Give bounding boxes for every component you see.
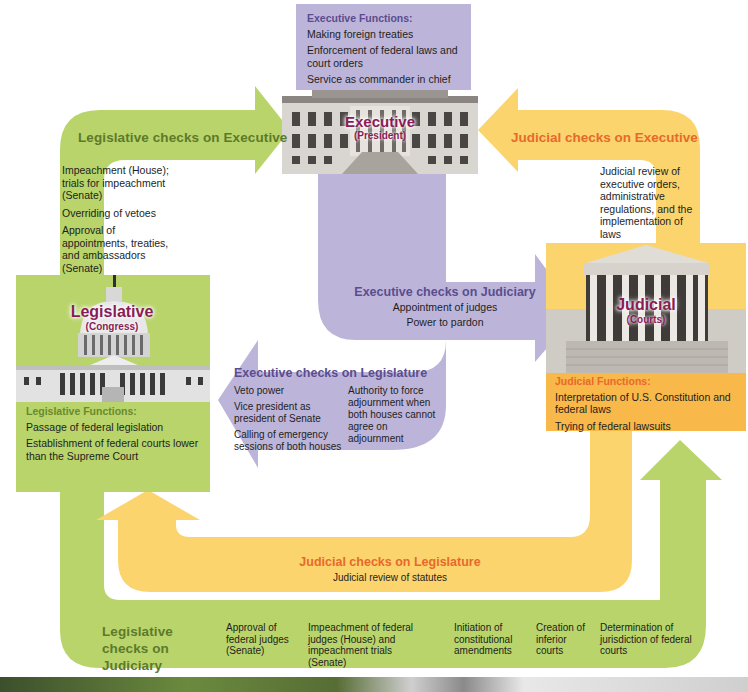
jud-on-leg-title: Judicial checks on Legislature <box>240 555 540 569</box>
bottom-photo-strip <box>0 677 748 692</box>
executive-label: Executive (President) <box>320 113 440 141</box>
exec-on-jud-item: Power to pardon <box>350 316 540 329</box>
jud-on-exec-list: Judicial review of executive orders, adm… <box>600 165 700 245</box>
leg-on-exec-title: Legislative checks on Executive <box>78 130 287 145</box>
judicial-name: Judicial <box>596 296 696 314</box>
legislative-functions-title: Legislative Functions: <box>26 405 208 418</box>
leg-on-jud-item: Initiation of constitutional amendments <box>454 622 524 657</box>
judicial-functions-title: Judicial Functions: <box>555 375 741 388</box>
legislative-label: Legislative (Congress) <box>52 303 172 332</box>
legislative-function-item: Passage of federal legislation <box>26 421 208 434</box>
leg-on-exec-list: Impeachment (House); trials for impeachm… <box>62 164 177 279</box>
check-item: Vice president as president of Senate <box>234 401 346 425</box>
legislative-functions: Legislative Functions: Passage of federa… <box>26 405 208 466</box>
exec-on-jud: Executive checks on Judiciary Appointmen… <box>350 285 540 328</box>
executive-functions-title: Executive Functions: <box>307 12 467 25</box>
arrow-executive-to-judiciary <box>318 170 578 362</box>
executive-name: Executive <box>320 113 440 130</box>
legislative-sub: (Congress) <box>52 321 172 332</box>
executive-function-item: Enforcement of federal laws and court or… <box>307 44 467 69</box>
check-item: Approval of appointments, treaties, and … <box>62 224 177 274</box>
executive-function-item: Service as commander in chief <box>307 73 467 86</box>
legislative-function-item: Establishment of federal courts lower th… <box>26 437 208 462</box>
exec-on-leg-list-left: Veto power Vice president as president o… <box>234 385 346 458</box>
leg-on-jud-item: Impeachment of federal judges (House) an… <box>308 622 428 668</box>
check-item: Calling of emergency sessions of both ho… <box>234 429 346 453</box>
exec-on-jud-item: Appointment of judges <box>350 301 540 314</box>
judicial-sub: (Courts) <box>596 314 696 325</box>
capitol-image <box>16 275 210 402</box>
leg-on-jud-item: Creation of inferior courts <box>536 622 586 657</box>
exec-on-jud-title: Executive checks on Judiciary <box>350 285 540 299</box>
judicial-function-item: Trying of federal lawsuits <box>555 420 741 433</box>
leg-on-jud-item: Determination of jurisdiction of federal… <box>600 622 692 657</box>
check-item: Judicial review of executive orders, adm… <box>600 165 700 240</box>
leg-on-jud-item: Approval of federal judges (Senate) <box>226 622 300 657</box>
check-item: Authority to force adjournment when both… <box>348 385 440 445</box>
check-item: Veto power <box>234 385 346 397</box>
exec-on-leg-list-right: Authority to force adjournment when both… <box>348 385 440 450</box>
leg-on-jud-title: Legislative checks on Judiciary <box>102 623 217 674</box>
legislative-name: Legislative <box>52 303 172 321</box>
jud-on-leg-item: Judicial review of statutes <box>240 572 540 585</box>
executive-sub: (President) <box>320 130 440 141</box>
exec-on-leg-title: Executive checks on Legislature <box>234 366 427 380</box>
judicial-function-item: Interpretation of U.S. Constitution and … <box>555 391 741 416</box>
jud-on-leg: Judicial checks on Legislature Judicial … <box>240 555 540 585</box>
judicial-label: Judicial (Courts) <box>596 296 696 325</box>
check-item: Overriding of vetoes <box>62 207 177 220</box>
executive-function-item: Making foreign treaties <box>307 28 467 41</box>
jud-on-exec-title: Judicial checks on Executive <box>511 130 698 145</box>
check-item: Impeachment (House); trials for impeachm… <box>62 164 177 202</box>
executive-functions: Executive Functions: Making foreign trea… <box>307 12 467 90</box>
judicial-functions: Judicial Functions: Interpretation of U.… <box>555 375 741 436</box>
